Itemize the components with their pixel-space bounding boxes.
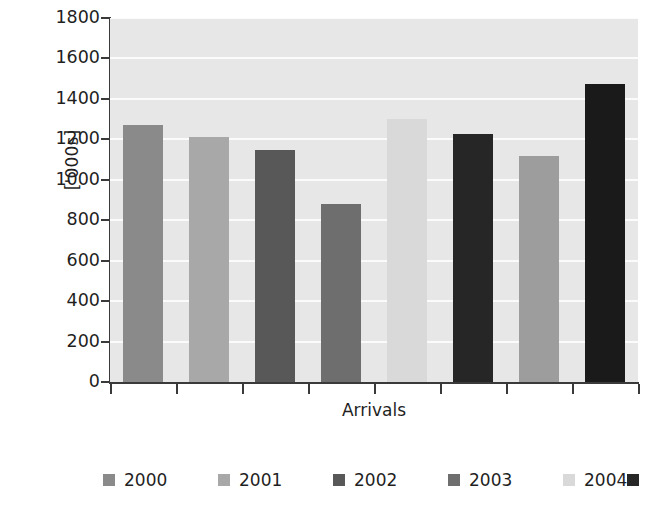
- legend-swatch-icon: [448, 474, 460, 486]
- legend-label: 2004: [584, 472, 627, 489]
- legend-item-2004[interactable]: 2004: [563, 466, 627, 494]
- bar-2004: [387, 119, 427, 382]
- x-axis-tick: [440, 384, 442, 394]
- x-axis-tick: [110, 384, 112, 394]
- x-axis-tick: [506, 384, 508, 394]
- x-axis-tick: [638, 384, 640, 394]
- legend-label: 2000: [124, 472, 167, 489]
- bar-2006: [519, 156, 559, 382]
- y-axis-tick-labels: 180016001400120010008006004002000: [34, 0, 100, 528]
- bar-chart: ['000s] 18001600140012001000800600400200…: [0, 0, 646, 528]
- gridline: [110, 18, 638, 19]
- legend-item-2000[interactable]: 2000: [103, 466, 218, 494]
- y-axis-tick: [101, 138, 110, 140]
- chart-legend: 20002001200220032004200520062007: [103, 466, 563, 494]
- y-tick-label: 1000: [38, 171, 100, 189]
- legend-swatch-icon: [563, 474, 575, 486]
- y-axis-tick: [101, 57, 110, 59]
- legend-item-2005[interactable]: 2005: [627, 466, 646, 494]
- y-tick-label: 1200: [38, 130, 100, 148]
- y-axis-tick: [101, 98, 110, 100]
- y-axis-tick: [101, 17, 110, 19]
- x-axis-tick: [242, 384, 244, 394]
- bar-2002: [255, 150, 295, 382]
- legend-item-2002[interactable]: 2002: [333, 466, 448, 494]
- y-tick-label: 200: [38, 333, 100, 351]
- bar-2001: [189, 137, 229, 382]
- y-tick-label: 1800: [38, 9, 100, 27]
- legend-swatch-icon: [333, 474, 345, 486]
- y-axis-tick: [101, 300, 110, 302]
- y-tick-label: 1400: [38, 90, 100, 108]
- legend-swatch-icon: [103, 474, 115, 486]
- x-axis-tick: [374, 384, 376, 394]
- x-axis-title: Arrivals: [110, 400, 638, 420]
- gridline: [110, 57, 638, 59]
- y-axis-tick: [101, 179, 110, 181]
- legend-label: 2003: [469, 472, 512, 489]
- legend-label: 2001: [239, 472, 282, 489]
- y-tick-label: 1600: [38, 49, 100, 67]
- legend-swatch-icon: [218, 474, 230, 486]
- y-tick-label: 800: [38, 211, 100, 229]
- legend-item-2001[interactable]: 2001: [218, 466, 333, 494]
- bar-2007: [585, 84, 625, 382]
- y-axis-tick: [101, 219, 110, 221]
- y-axis-tick: [101, 381, 110, 383]
- bar-2005: [453, 134, 493, 382]
- plot-area: [110, 18, 638, 382]
- y-tick-label: 0: [38, 373, 100, 391]
- y-axis-tick: [101, 260, 110, 262]
- legend-item-2003[interactable]: 2003: [448, 466, 563, 494]
- gridline: [110, 98, 638, 100]
- y-tick-label: 600: [38, 252, 100, 270]
- bar-2003: [321, 204, 361, 382]
- legend-swatch-icon: [627, 474, 639, 486]
- x-axis-tick: [176, 384, 178, 394]
- y-axis-tick: [101, 341, 110, 343]
- legend-label: 2002: [354, 472, 397, 489]
- x-axis-tick: [308, 384, 310, 394]
- y-tick-label: 400: [38, 292, 100, 310]
- bar-2000: [123, 125, 163, 382]
- x-axis-tick: [572, 384, 574, 394]
